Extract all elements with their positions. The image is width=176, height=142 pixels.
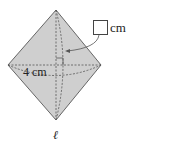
bottom-letter: ℓ <box>53 128 58 142</box>
answer-box[interactable] <box>93 20 108 35</box>
length-label: 4 cm <box>23 65 47 80</box>
unit-label: cm <box>110 20 126 36</box>
